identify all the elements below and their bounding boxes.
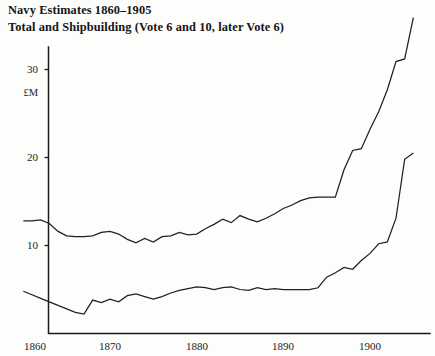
x-tick-label-1870: 1870	[99, 340, 122, 352]
x-tick-label-1860: 1860	[24, 340, 47, 352]
chart-page: Navy Estimates 1860–1905 Total and Shipb…	[0, 0, 435, 356]
series-line-total	[23, 18, 413, 243]
chart-plot-area: 10 20 30 £M 1860 1870 1880 1890 1900	[0, 0, 435, 356]
x-tick-label-1900: 1900	[359, 340, 382, 352]
line-chart-svg: 10 20 30 £M 1860 1870 1880 1890 1900	[0, 0, 435, 356]
y-tick-label-20: 20	[27, 151, 39, 163]
y-axis-unit-label: £M	[23, 87, 38, 98]
y-tick-label-30: 30	[27, 63, 39, 75]
x-tick-label-1890: 1890	[272, 340, 295, 352]
chart-axes	[49, 47, 431, 334]
y-tick-label-10: 10	[27, 239, 39, 251]
x-tick-label-1880: 1880	[186, 340, 209, 352]
series-line-shipbuilding	[23, 153, 413, 314]
